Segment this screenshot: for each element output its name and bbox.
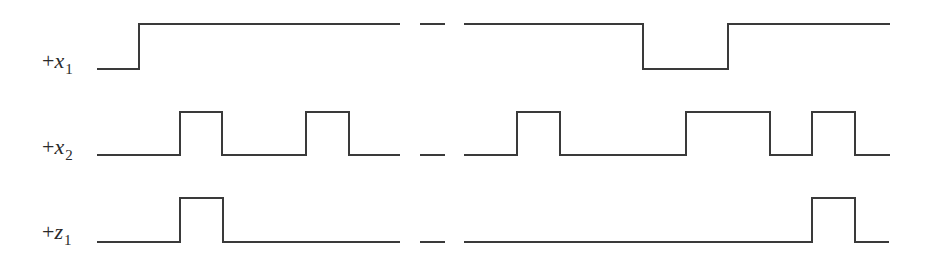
signal-label-x1: +x1 (42, 50, 73, 72)
label-sign: + (42, 134, 54, 159)
waveform-right-segment (464, 198, 889, 242)
waveform-right-segment (464, 24, 890, 69)
waveform-canvas (0, 0, 933, 257)
label-subscript: 1 (65, 61, 73, 77)
label-variable: x (54, 134, 64, 159)
waveform-x2 (97, 112, 890, 155)
waveform-left-segment (97, 112, 400, 155)
timing-diagram: +x1 +x2 +z1 (0, 0, 933, 257)
label-subscript: 1 (64, 232, 72, 248)
waveform-x1 (97, 24, 890, 69)
signal-label-z1: +z1 (42, 221, 71, 243)
label-subscript: 2 (65, 147, 73, 163)
waveform-right-segment (464, 112, 890, 155)
waveform-z1 (97, 198, 889, 242)
label-sign: + (42, 48, 54, 73)
waveform-left-segment (97, 24, 400, 69)
label-variable: z (54, 219, 63, 244)
label-sign: + (42, 219, 54, 244)
label-variable: x (54, 48, 64, 73)
waveform-left-segment (97, 198, 400, 242)
signal-label-x2: +x2 (42, 136, 73, 158)
